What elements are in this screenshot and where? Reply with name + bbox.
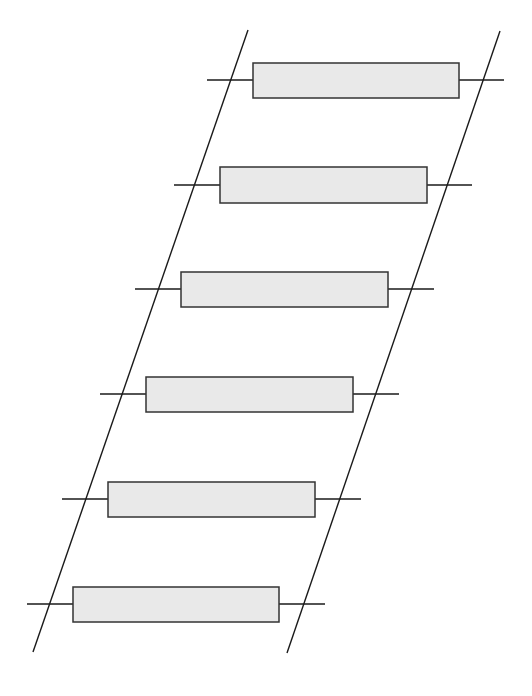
rung-box — [108, 482, 315, 517]
rung-box — [146, 377, 353, 412]
rung-box — [253, 63, 459, 98]
rung-3 — [135, 272, 434, 307]
rung-2 — [174, 167, 472, 203]
rung-box — [181, 272, 388, 307]
rails — [33, 30, 500, 653]
rung-4 — [100, 377, 399, 412]
ladder-diagram — [0, 0, 532, 696]
rung-box — [73, 587, 279, 622]
rung-1 — [207, 63, 504, 98]
rung-box — [220, 167, 427, 203]
left-rail — [33, 30, 248, 652]
rung-5 — [62, 482, 361, 517]
rung-6 — [27, 587, 325, 622]
right-rail — [287, 31, 500, 653]
rungs — [27, 63, 504, 622]
